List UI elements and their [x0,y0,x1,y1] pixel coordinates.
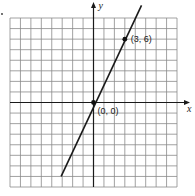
data-point [91,100,96,105]
y-axis-arrow-icon [91,2,96,8]
axes: x y [10,0,192,187]
data-point [122,37,127,42]
data-point-label: (3, 6) [131,34,152,44]
x-axis-label: x [186,103,192,114]
corner-dot [1,13,3,15]
coordinate-graph: x y (3, 6)(0, 0) [0,0,195,196]
series [61,5,141,176]
data-point-label: (0, 0) [98,106,119,116]
series-line [61,5,141,176]
y-axis-label: y [98,0,104,11]
